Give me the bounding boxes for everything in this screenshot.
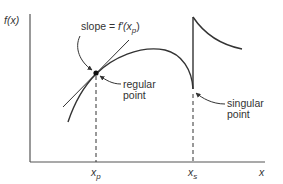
regular-point-arrow xyxy=(100,76,121,84)
tick-label-xp: xp xyxy=(90,166,101,181)
tick-xs-sub: s xyxy=(193,172,197,181)
slope-label-func: f′(x xyxy=(118,20,132,32)
slope-label: slope = f′(xp) xyxy=(81,20,140,35)
singular-point-arrow xyxy=(196,93,225,104)
y-axis-label: f(x) xyxy=(4,14,19,26)
tick-label-xs: xs xyxy=(187,166,197,181)
slope-arrow xyxy=(78,36,92,70)
singular-point-label-line2: point xyxy=(227,108,250,120)
tick-xp-sub: p xyxy=(95,172,101,181)
x-axis-label: x xyxy=(258,166,265,178)
regular-point-marker xyxy=(93,70,98,75)
diagram-canvas: f(x) slope = f′(xp) regular point singul… xyxy=(0,0,283,184)
function-curve-right xyxy=(193,17,242,49)
slope-label-prefix: slope = xyxy=(81,20,118,32)
regular-point-label-line2: point xyxy=(123,89,146,101)
slope-label-suffix: ) xyxy=(136,20,140,32)
